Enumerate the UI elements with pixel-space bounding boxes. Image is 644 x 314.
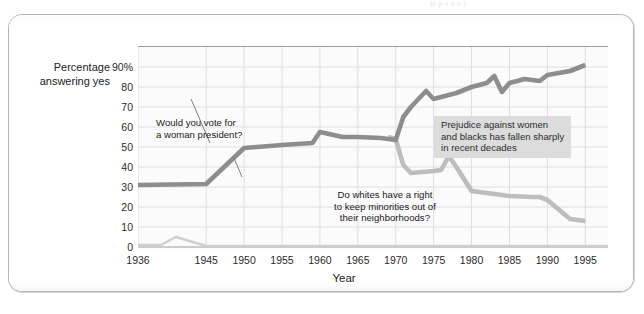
x-tick-1950: 1950 — [232, 254, 255, 266]
x-tick-1960: 1960 — [308, 254, 331, 266]
x-tick-1965: 1965 — [346, 254, 369, 266]
y-tick-30: 30 — [121, 181, 133, 193]
baseline-artifact-line — [138, 237, 608, 246]
x-tick-1985: 1985 — [498, 254, 521, 266]
y-axis-title-line-2: answering yes — [36, 75, 110, 89]
x-tick-1970: 1970 — [384, 254, 407, 266]
annotation-woman-president-line-2: a woman president? — [156, 129, 242, 141]
y-tick-80: 80 — [121, 81, 133, 93]
x-tick-1975: 1975 — [422, 254, 445, 266]
annotation-prejudice-line-1: Prejudice against women — [441, 119, 564, 131]
y-tick-70: 70 — [121, 101, 133, 113]
annotation-woman-president-line-1: Would you vote for — [156, 117, 242, 129]
annotation-prejudice-line-2: and blacks has fallen sharply — [441, 131, 564, 143]
y-tick-50: 50 — [121, 141, 133, 153]
annotation-prejudice-callout: Prejudice against women and blacks has f… — [434, 116, 571, 158]
annotation-whites-right-line-3: their neighborhoods? — [334, 212, 436, 224]
annotation-woman-president: Would you vote for a woman president? — [156, 117, 242, 140]
x-tick-1995: 1995 — [574, 254, 597, 266]
y-tick-20: 20 — [121, 201, 133, 213]
x-tick-1955: 1955 — [270, 254, 293, 266]
annotation-whites-right: Do whites have a right to keep minoritie… — [334, 189, 436, 224]
x-tick-1980: 1980 — [460, 254, 483, 266]
y-tick-0: 0 — [127, 241, 133, 253]
y-tick-60: 60 — [121, 121, 133, 133]
x-tick-1936: 1936 — [126, 254, 149, 266]
y-tick-90: 90% — [112, 61, 133, 73]
annotation-whites-right-line-1: Do whites have a right — [334, 189, 436, 201]
x-tick-1945: 1945 — [195, 254, 218, 266]
clipped-top-text: to p n n n ) — [430, 0, 630, 8]
x-axis-title-wrapper: Year — [0, 272, 644, 284]
plot-area: 90%80706050403020100 1936194519501955196… — [138, 46, 608, 251]
annotation-whites-right-line-2: to keep minorities out of — [334, 201, 436, 213]
y-axis-title-line-1: Percentage — [36, 61, 110, 75]
y-axis-title: Percentage answering yes — [36, 61, 110, 88]
y-tick-10: 10 — [121, 221, 133, 233]
y-tick-40: 40 — [121, 161, 133, 173]
x-axis-title: Year — [332, 272, 355, 284]
annotation-prejudice-line-3: in recent decades — [441, 142, 564, 154]
x-tick-1990: 1990 — [536, 254, 559, 266]
